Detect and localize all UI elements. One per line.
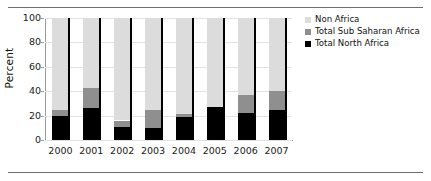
legend-swatch-icon — [305, 17, 311, 23]
chart-figure: 020406080100 Percent 2000200120022003200… — [0, 0, 431, 181]
bar-stack[interactable] — [269, 18, 287, 140]
legend-item[interactable]: Non Africa — [305, 14, 429, 25]
y-tick-mark — [41, 91, 44, 92]
bar-edge-line — [130, 18, 132, 140]
x-tick-label: 2006 — [229, 146, 263, 156]
y-axis-title: Percent — [3, 38, 15, 98]
x-tick-label: 2004 — [167, 146, 201, 156]
y-tick-mark — [41, 42, 44, 43]
bar-edge-line — [161, 18, 163, 140]
bar-stack[interactable] — [145, 18, 163, 140]
bar-edge-line — [223, 18, 225, 140]
y-tick-label: 20 — [7, 111, 41, 121]
y-tick-label: 0 — [7, 135, 41, 145]
chart-legend: Non AfricaTotal Sub Saharan AfricaTotal … — [305, 14, 429, 50]
bar-stack[interactable] — [52, 18, 70, 140]
legend-label: Total Sub Saharan Africa — [315, 27, 420, 36]
bar-stack[interactable] — [238, 18, 256, 140]
x-tick-label: 2000 — [43, 146, 77, 156]
bar-edge-line — [99, 18, 101, 140]
y-tick-mark — [41, 18, 44, 19]
bar-edge-line — [192, 18, 194, 140]
top-divider-rule — [8, 7, 423, 8]
y-tick-mark — [41, 116, 44, 117]
bar-stack[interactable] — [207, 18, 225, 140]
legend-swatch-icon — [305, 29, 311, 35]
bar-stack[interactable] — [114, 18, 132, 140]
x-tick-label: 2007 — [260, 146, 294, 156]
bar-edge-line — [68, 18, 70, 140]
legend-label: Total North Africa — [315, 39, 389, 48]
x-tick-label: 2002 — [105, 146, 139, 156]
y-tick-mark — [41, 140, 44, 141]
legend-label: Non Africa — [315, 15, 359, 24]
x-tick-label: 2001 — [74, 146, 108, 156]
x-tick-label: 2003 — [136, 146, 170, 156]
plot-area — [45, 18, 292, 140]
y-tick-mark — [41, 67, 44, 68]
bar-stack[interactable] — [176, 18, 194, 140]
legend-swatch-icon — [305, 41, 311, 47]
x-tick-label: 2005 — [198, 146, 232, 156]
legend-item[interactable]: Total North Africa — [305, 38, 429, 49]
bar-edge-line — [254, 18, 256, 140]
gridline — [45, 140, 292, 141]
y-tick-label: 100 — [7, 13, 41, 23]
x-axis-tick-labels: 20002001200220032004200520062007 — [45, 146, 292, 160]
bar-stack[interactable] — [83, 18, 101, 140]
legend-item[interactable]: Total Sub Saharan Africa — [305, 26, 429, 37]
bottom-divider-rule — [8, 172, 423, 173]
bar-edge-line — [285, 18, 287, 140]
